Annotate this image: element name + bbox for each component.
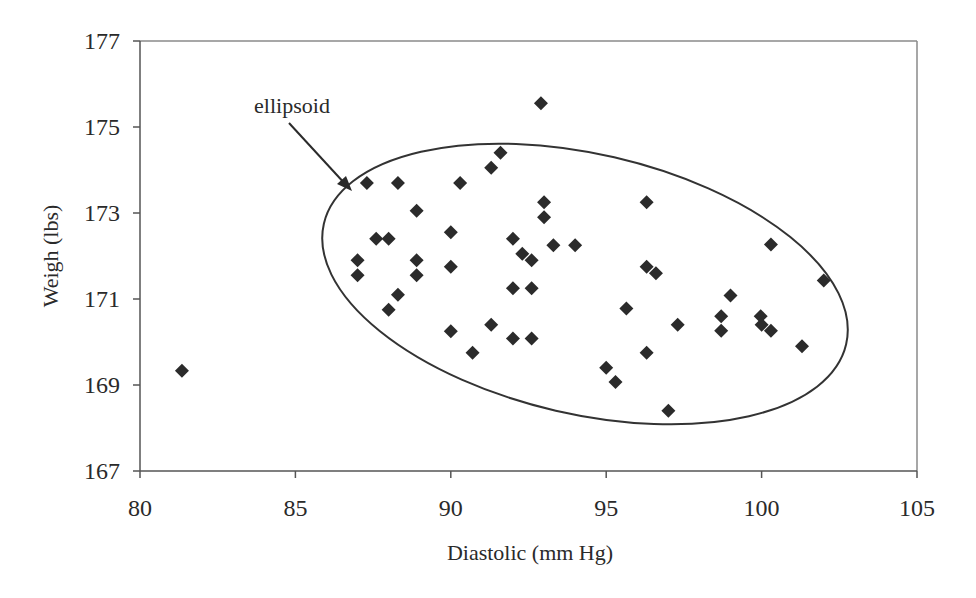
x-tick-label: 85 [283,495,307,521]
y-tick-label: 177 [84,28,120,54]
x-tick-label: 90 [439,495,463,521]
y-tick-label: 171 [84,286,120,312]
y-axis-title: Weigh (lbs) [38,205,63,308]
x-tick-label: 80 [128,495,152,521]
y-tick-label: 175 [84,114,120,140]
y-tick-label: 169 [84,372,120,398]
x-axis-ticks: 80859095100105 [128,471,935,521]
ellipsoid-label: ellipsoid [254,93,330,118]
y-tick-label: 167 [84,458,120,484]
x-axis-title: Diastolic (mm Hg) [447,540,613,565]
y-axis-ticks: 167169171173175177 [84,28,140,484]
scatter-chart: 167169171173175177 80859095100105 Diasto… [0,0,976,598]
x-tick-label: 100 [744,495,780,521]
x-tick-label: 105 [899,495,935,521]
y-tick-label: 173 [84,200,120,226]
x-tick-label: 95 [594,495,618,521]
